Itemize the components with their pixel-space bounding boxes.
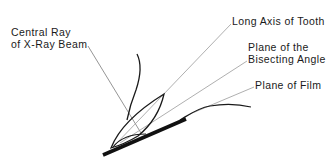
long-axis-line [114, 24, 231, 146]
film-plane [103, 119, 186, 155]
bisecting-angle-label-line2: Bisecting Angle [248, 53, 326, 65]
tooth-root-curve [127, 54, 140, 120]
central-ray-label: Central Ray of X-Ray Beam [11, 26, 87, 50]
central-ray-label-line2: of X-Ray Beam [11, 38, 87, 50]
central-ray-line [88, 46, 141, 133]
bisecting-angle-label-line1: Plane of the [248, 41, 326, 53]
bisecting-angle-label: Plane of the Bisecting Angle [248, 41, 326, 65]
long-axis-label: Long Axis of Tooth [232, 15, 325, 27]
soft-tissue-curve [180, 105, 251, 120]
film-plane-label: Plane of Film [255, 79, 321, 91]
central-ray-label-line1: Central Ray [11, 26, 87, 38]
film-plane-leader [190, 87, 254, 114]
